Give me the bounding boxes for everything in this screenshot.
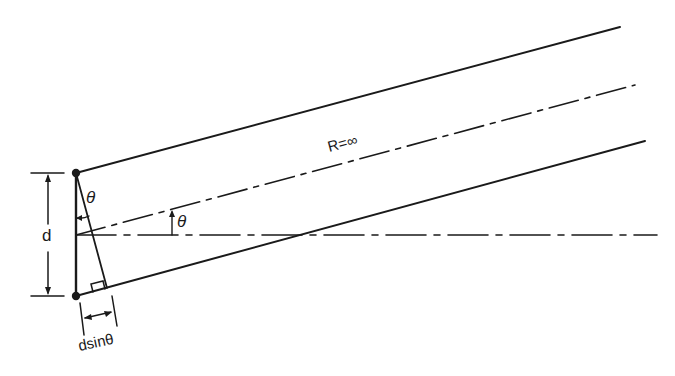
center-ray-dashdot bbox=[76, 85, 635, 235]
d-arrowhead-up bbox=[45, 174, 51, 182]
theta-label-top: θ bbox=[86, 188, 95, 208]
theta-label-axis: θ bbox=[177, 212, 186, 232]
top-source-point bbox=[72, 169, 80, 177]
dsin-arrowhead-right bbox=[104, 311, 112, 317]
spacing-label-d: d bbox=[42, 226, 51, 246]
diagram-canvas: θ θ d R=∞ dsinθ bbox=[0, 0, 675, 376]
dsin-tick-left bbox=[80, 303, 84, 335]
dsin-tick-right bbox=[112, 296, 117, 326]
dsin-arrowhead-left bbox=[84, 314, 92, 320]
diagram-svg bbox=[0, 0, 675, 376]
d-arrowhead-down bbox=[45, 287, 51, 295]
top-ray bbox=[76, 27, 620, 173]
theta-axis-arrowhead bbox=[169, 210, 175, 217]
bottom-source-point bbox=[72, 292, 80, 300]
bottom-ray bbox=[76, 141, 645, 296]
